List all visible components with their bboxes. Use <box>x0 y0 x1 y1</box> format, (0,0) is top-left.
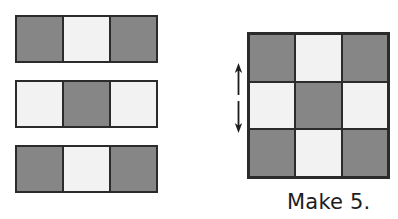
strip-3-cell-1 <box>17 147 64 191</box>
grid-cell-r2c1 <box>250 83 294 129</box>
grid-cell-r3c1 <box>250 130 294 176</box>
arrow-down-icon <box>235 101 242 133</box>
strip-3[interactable] <box>15 145 158 193</box>
grid-cell-r3c3 <box>343 130 387 176</box>
strip-1-cell-2 <box>64 17 111 61</box>
strip-1-cell-3 <box>111 17 156 61</box>
vertical-double-arrow <box>228 56 250 140</box>
grid-cell-r1c1 <box>250 35 294 81</box>
grid-cell-r1c2 <box>296 35 340 81</box>
figure-canvas: Make 5. <box>0 0 398 219</box>
arrow-up-icon <box>235 63 242 95</box>
strip-3-cell-3 <box>111 147 156 191</box>
grid-cell-r2c2 <box>296 83 340 129</box>
strip-2-cell-3 <box>111 82 156 126</box>
grid-cell-r2c3 <box>343 83 387 129</box>
strip-3-cell-2 <box>64 147 111 191</box>
grid-cell-r1c3 <box>343 35 387 81</box>
arrow-svg <box>228 56 250 140</box>
strip-2-cell-1 <box>17 82 64 126</box>
strip-1-cell-1 <box>17 17 64 61</box>
checkerboard-grid[interactable] <box>247 32 390 179</box>
strip-2-cell-2 <box>64 82 111 126</box>
caption-make-5: Make 5. <box>287 190 370 214</box>
strip-1[interactable] <box>15 15 158 63</box>
strip-2[interactable] <box>15 80 158 128</box>
grid-cell-r3c2 <box>296 130 340 176</box>
